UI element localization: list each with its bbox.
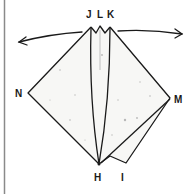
label-n: N xyxy=(15,88,22,99)
paper-shape xyxy=(28,26,170,164)
left-arrow xyxy=(19,32,82,42)
h-point xyxy=(98,163,101,166)
origami-diagram: J L K N M H I xyxy=(0,0,190,194)
label-j: J xyxy=(86,9,92,20)
right-arrow xyxy=(118,30,182,34)
diagram-frame: J L K N M H I xyxy=(0,0,190,194)
label-i: I xyxy=(121,172,124,183)
label-k: K xyxy=(107,9,115,20)
label-m: M xyxy=(174,94,182,105)
label-h: H xyxy=(94,172,101,183)
label-l: L xyxy=(97,9,103,20)
